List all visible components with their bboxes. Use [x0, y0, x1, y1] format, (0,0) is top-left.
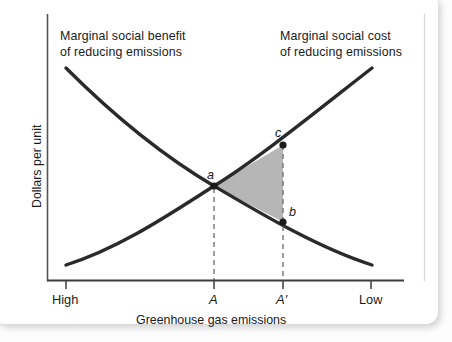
point-marker-c — [279, 141, 286, 148]
shaded-deadweight-loss-triangle — [214, 145, 283, 222]
point-label-c: c — [275, 126, 281, 141]
point-label-b: b — [289, 205, 296, 220]
msc-curve-label-line2: of reducing emissions — [280, 45, 402, 60]
msb-curve-label-line1: Marginal social benefit — [60, 29, 186, 44]
marginal-social-cost-curve — [66, 68, 372, 265]
point-marker-a — [210, 182, 217, 189]
x-tick-label-A-prime: A′ — [276, 292, 287, 308]
figure-card: Dollars per unit Marginal social benefit… — [0, 0, 452, 342]
point-marker-b — [279, 218, 286, 225]
x-axis-title: Greenhouse gas emissions — [136, 313, 286, 328]
marginal-social-benefit-curve — [66, 68, 372, 265]
x-tick-label-low: Low — [359, 292, 382, 308]
x-tick-label-A: A — [209, 292, 218, 308]
msb-curve-label-line2: of reducing emissions — [60, 45, 182, 60]
x-tick-label-high: High — [52, 292, 78, 308]
point-label-a: a — [207, 168, 214, 183]
msc-curve-label-line1: Marginal social cost — [280, 29, 391, 44]
y-axis-title: Dollars per unit — [30, 125, 45, 208]
